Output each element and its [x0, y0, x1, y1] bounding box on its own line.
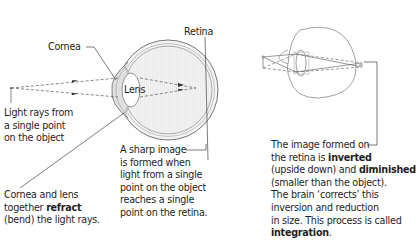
label-cornea: Cornea — [48, 41, 81, 54]
caption-line: (smaller than the object). — [271, 177, 416, 190]
caption-line: in size. This process is called — [271, 215, 416, 228]
term-inverted: inverted — [328, 152, 372, 163]
caption-line: integration. — [271, 227, 416, 240]
image-on-retina — [359, 63, 363, 67]
caption-line: A sharp image — [120, 144, 207, 157]
caption-image-formed: The image formed on the retina is invert… — [271, 139, 416, 240]
caption-line: reaches a single — [120, 194, 207, 207]
caption-line: inversion and reduction — [271, 202, 416, 215]
caption-line: on the object — [4, 132, 73, 145]
caption-line: point on the object — [120, 182, 207, 195]
caption-line: The image formed on — [271, 139, 416, 152]
term-diminished: diminished — [359, 164, 416, 175]
light-source-point — [10, 87, 12, 103]
term-refract: refract — [46, 202, 81, 213]
caption-line: (upside down) and diminished — [271, 164, 416, 177]
caption-light-rays: Light rays from a single point on the ob… — [4, 107, 73, 145]
caption-line: point on the retina. — [120, 207, 207, 220]
text: together — [4, 202, 46, 213]
caption-line: together refract — [4, 202, 100, 215]
caption-line: is formed when — [120, 157, 207, 170]
text: (upside down) and — [271, 164, 359, 175]
caption-line: Light rays from — [4, 107, 73, 120]
text: the retina is — [271, 152, 328, 163]
eye-small — [279, 27, 356, 98]
caption-line: the retina is inverted — [271, 152, 416, 165]
caption-line: light from a single — [120, 169, 207, 182]
text: . — [329, 227, 332, 238]
label-retina: Retina — [184, 26, 213, 39]
caption-sharp-image: A sharp image is formed when light from … — [120, 144, 207, 220]
caption-line: a single point — [4, 120, 73, 133]
caption-line: Cornea and lens — [4, 189, 100, 202]
caption-line: The brain ‘corrects’ this — [271, 189, 416, 202]
caption-refract: Cornea and lens together refract (bend) … — [4, 189, 100, 227]
leader-inverted — [364, 62, 377, 145]
term-integration: integration — [271, 227, 329, 238]
caption-line: (bend) the light rays. — [4, 214, 100, 227]
label-lens: Lens — [124, 84, 145, 97]
